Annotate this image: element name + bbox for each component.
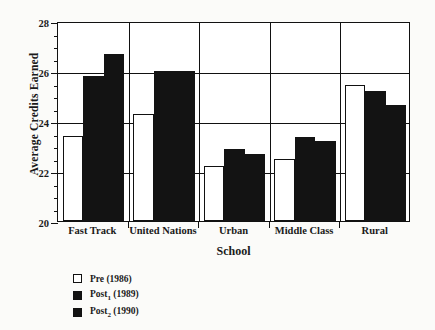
y-tick-minor-25.5	[54, 86, 58, 87]
bar-fast-track-series-3	[104, 54, 125, 222]
bar-united-nations-series-2	[154, 71, 175, 221]
x-tick-label-united-nations: United Nations	[129, 225, 196, 236]
y-tick-minor-25	[54, 98, 58, 99]
y-tick-minor-27.5	[54, 36, 58, 37]
y-tick-label-22: 22	[39, 168, 50, 179]
y-tick-minor-20.5	[54, 211, 58, 212]
chart-legend: Pre (1986)Post1 (1989)Post2 (1990)	[73, 270, 139, 321]
legend-swatch-pre	[73, 274, 82, 283]
legend-item-2: Post1 (1989)	[73, 287, 139, 304]
bar-urban-series-1	[204, 166, 225, 221]
group-separator-3	[270, 23, 271, 221]
legend-label-3: Post2 (1990)	[90, 306, 139, 319]
y-tick-label-20: 20	[39, 218, 50, 229]
bar-rural-series-2	[365, 91, 386, 221]
y-tick-label-24: 24	[39, 118, 50, 129]
bar-rural-series-3	[386, 105, 407, 221]
y-tick-label-26: 26	[39, 68, 50, 79]
legend-swatch-post2	[73, 308, 82, 317]
y-tick-minor-22.5	[54, 161, 58, 162]
y-tick-major-28	[51, 23, 58, 24]
legend-label-1: Pre (1986)	[90, 274, 132, 284]
x-tick-3	[269, 222, 270, 228]
y-tick-major-24	[51, 123, 58, 124]
y-tick-minor-24.5	[54, 111, 58, 112]
x-tick-label-fast-track: Fast Track	[68, 225, 116, 236]
bar-united-nations-series-3	[174, 71, 195, 221]
y-tick-major-22	[51, 173, 58, 174]
bar-fast-track-series-1	[63, 136, 84, 221]
legend-item-1: Pre (1986)	[73, 270, 139, 287]
group-separator-1	[129, 23, 130, 221]
legend-item-3: Post2 (1990)	[73, 304, 139, 321]
y-tick-label-28: 28	[39, 18, 50, 29]
plot-area: 2022242628	[57, 22, 410, 222]
y-tick-minor-21.5	[54, 186, 58, 187]
x-tick-4	[339, 222, 340, 228]
group-separator-4	[340, 23, 341, 221]
y-tick-minor-26.5	[54, 61, 58, 62]
bar-chart-figure: Average Credits Earned 2022242628 Fast T…	[0, 0, 435, 330]
bar-middle-class-series-1	[274, 159, 295, 222]
y-axis-title: Average Credits Earned	[28, 14, 40, 214]
bar-urban-series-3	[245, 154, 266, 222]
group-separator-2	[199, 23, 200, 221]
x-tick-label-rural: Rural	[362, 225, 388, 236]
y-tick-major-26	[51, 73, 58, 74]
x-axis-title: School	[57, 244, 410, 259]
x-tick-label-middle-class: Middle Class	[275, 225, 334, 236]
legend-label-2: Post1 (1989)	[90, 289, 139, 302]
legend-swatch-post1	[73, 291, 82, 300]
bar-middle-class-series-2	[295, 137, 316, 221]
x-tick-label-urban: Urban	[219, 225, 248, 236]
y-tick-minor-27	[54, 48, 58, 49]
bar-rural-series-1	[345, 85, 366, 221]
y-tick-minor-23	[54, 148, 58, 149]
x-tick-2	[198, 222, 199, 228]
bar-middle-class-series-3	[315, 141, 336, 221]
bar-urban-series-2	[224, 149, 245, 222]
bar-united-nations-series-1	[133, 114, 154, 222]
y-tick-major-20	[51, 223, 58, 224]
bar-fast-track-series-2	[83, 76, 104, 221]
y-tick-minor-21	[54, 198, 58, 199]
y-tick-minor-23.5	[54, 136, 58, 137]
